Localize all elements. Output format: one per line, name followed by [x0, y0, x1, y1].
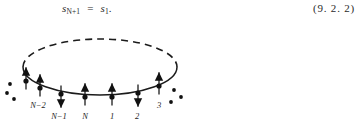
- spin-arrow-up-head: [108, 83, 116, 91]
- spin-arrow-up-head: [36, 74, 44, 82]
- ellipsis-dot-right: [169, 100, 173, 104]
- spin-arrow-down-head: [134, 98, 142, 106]
- spin-ring-svg: N−2N−1N123: [0, 20, 361, 133]
- equation-number: (9. 2. 2): [313, 2, 355, 14]
- spin-site: [57, 85, 65, 107]
- ellipsis-dot-left: [8, 82, 12, 86]
- equation-line: sN+1=s1. (9. 2. 2): [0, 2, 361, 20]
- site-node-dot: [23, 78, 28, 83]
- site-label: 2: [135, 111, 140, 121]
- ellipsis-dot-left: [12, 97, 16, 101]
- ring-group: [23, 39, 177, 95]
- site-node-dot: [58, 91, 63, 96]
- ring-upper-dashed-arc: [23, 39, 177, 67]
- equation-expression: sN+1=s1.: [62, 2, 112, 16]
- spin-arrow-up-head: [81, 83, 89, 91]
- site-node-dot: [156, 83, 161, 88]
- spin-site: [134, 84, 142, 106]
- site-label: N−1: [50, 111, 67, 121]
- equation-terminator: .: [109, 2, 112, 14]
- ellipsis-dot-right: [172, 88, 176, 92]
- spin-arrow-down-head: [57, 99, 65, 107]
- equation-lhs-subscript: N+1: [66, 7, 80, 16]
- site-node-dot: [82, 94, 87, 99]
- ellipsis-dot-left: [5, 91, 9, 95]
- site-label: N: [81, 111, 89, 121]
- spin-ring-figure: N−2N−1N123: [0, 20, 361, 133]
- site-label: N−2: [29, 100, 46, 110]
- ring-lower-solid-arc: [23, 67, 177, 95]
- site-node-dot: [135, 90, 140, 95]
- site-label: 3: [156, 100, 161, 110]
- figure-page: sN+1=s1. (9. 2. 2) N−2N−1N123: [0, 0, 361, 133]
- spin-arrow-up-head: [155, 72, 163, 80]
- ellipsis-dot-right: [179, 95, 183, 99]
- labels-group: N−2N−1N123: [29, 100, 161, 121]
- equation-relation: =: [87, 2, 93, 14]
- site-label: 1: [110, 111, 114, 121]
- site-node-dot: [109, 94, 114, 99]
- site-node-dot: [37, 85, 42, 90]
